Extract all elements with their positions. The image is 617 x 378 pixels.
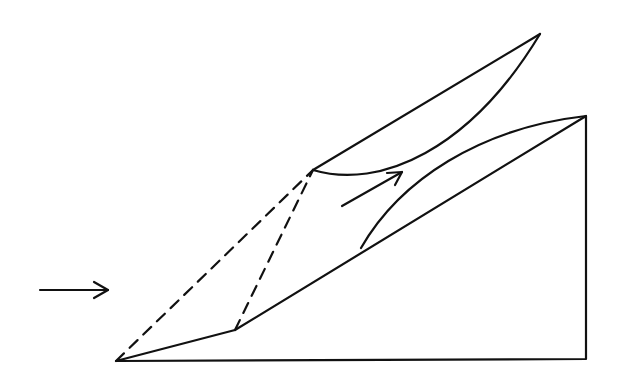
inlet-diagram xyxy=(0,0,617,378)
ramp-body xyxy=(116,116,586,361)
internal-flow-arrow-icon xyxy=(342,172,402,206)
cowl-outer-surface xyxy=(313,34,540,170)
freestream-arrow-icon xyxy=(40,282,108,298)
diagram-svg xyxy=(0,0,617,378)
oblique-shock-first xyxy=(116,170,313,361)
